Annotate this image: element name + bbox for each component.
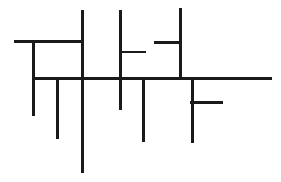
line-figure [0,0,281,182]
canvas-background [0,0,281,182]
drawing-canvas [0,0,281,182]
